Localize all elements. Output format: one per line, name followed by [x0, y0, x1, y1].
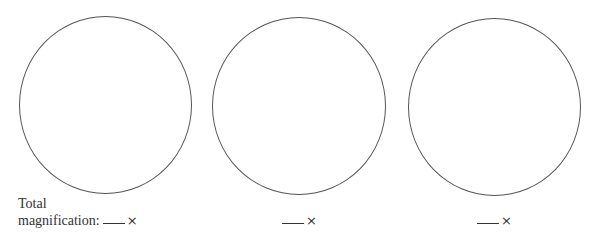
field-of-view-circle-3	[408, 18, 581, 196]
total-label: Total	[18, 195, 138, 212]
magnification-label-3: ×	[474, 212, 512, 229]
magnification-label: magnification:	[18, 213, 100, 228]
magnification-label-1: Total magnification:×	[18, 195, 138, 229]
field-of-view-circle-2	[212, 17, 386, 195]
magnification-label-2: ×	[279, 212, 317, 229]
magnification-blank-2[interactable]	[282, 223, 304, 224]
magnification-blank-1[interactable]	[103, 223, 125, 224]
field-of-view-circle-1	[19, 16, 192, 194]
times-icon: ×	[501, 213, 512, 228]
times-icon: ×	[306, 213, 317, 228]
times-icon: ×	[127, 213, 138, 228]
magnification-blank-3[interactable]	[477, 223, 499, 224]
